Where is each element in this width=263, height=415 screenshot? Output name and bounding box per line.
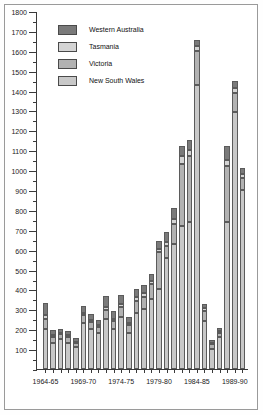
bar-column[interactable] bbox=[126, 317, 132, 369]
x-axis-tick bbox=[182, 369, 183, 373]
y-axis-label: 1600 bbox=[11, 48, 27, 55]
bar-column[interactable] bbox=[96, 320, 102, 369]
y-axis-minor-tick bbox=[33, 82, 37, 83]
bar-segment bbox=[134, 289, 140, 297]
y-axis-minor-tick bbox=[33, 22, 37, 23]
bar-segment bbox=[156, 241, 162, 249]
bar-column[interactable] bbox=[73, 338, 79, 369]
bar-segment bbox=[43, 303, 49, 315]
bar-column[interactable] bbox=[134, 289, 140, 369]
bar-column[interactable] bbox=[194, 40, 200, 369]
x-axis-tick bbox=[121, 369, 122, 373]
bar-segment bbox=[171, 219, 177, 224]
legend-label: Victoria bbox=[89, 60, 112, 67]
y-axis-tick bbox=[29, 111, 37, 112]
bar-column[interactable] bbox=[209, 340, 215, 369]
bar-segment bbox=[149, 299, 155, 369]
bar-segment bbox=[43, 329, 49, 369]
bar-segment bbox=[58, 329, 64, 333]
bar-segment bbox=[209, 340, 215, 342]
bar-segment bbox=[50, 337, 56, 343]
bar-column[interactable] bbox=[202, 304, 208, 369]
bar-segment bbox=[149, 284, 155, 299]
bar-segment bbox=[179, 146, 185, 156]
bar-segment bbox=[43, 315, 49, 319]
bar-column[interactable] bbox=[224, 146, 230, 369]
bar-segment bbox=[103, 319, 109, 369]
bar-segment bbox=[240, 178, 246, 190]
legend-label: Western Australia bbox=[89, 26, 144, 33]
bar-column[interactable] bbox=[43, 303, 49, 369]
bar-segment bbox=[156, 289, 162, 369]
y-axis-label: 100 bbox=[15, 347, 27, 354]
bar-segment bbox=[65, 343, 71, 369]
bar-segment bbox=[202, 308, 208, 311]
bar-segment bbox=[179, 156, 185, 164]
bar-segment bbox=[217, 337, 223, 369]
bar-segment bbox=[126, 325, 132, 333]
bar-column[interactable] bbox=[156, 241, 162, 369]
bar-column[interactable] bbox=[149, 274, 155, 369]
bar-column[interactable] bbox=[118, 295, 124, 369]
y-axis-tick bbox=[29, 131, 37, 132]
bar-segment bbox=[81, 323, 87, 369]
legend-item[interactable]: Western Australia bbox=[58, 22, 178, 37]
x-axis-tick bbox=[159, 369, 160, 373]
bar-segment bbox=[81, 313, 87, 315]
bar-segment bbox=[103, 296, 109, 307]
bar-column[interactable] bbox=[179, 146, 185, 369]
bar-segment bbox=[202, 311, 208, 321]
x-axis-tick bbox=[204, 369, 205, 373]
bar-column[interactable] bbox=[103, 296, 109, 369]
bar-column[interactable] bbox=[141, 285, 147, 369]
bar-segment bbox=[65, 331, 71, 335]
bar-column[interactable] bbox=[111, 311, 117, 369]
bar-column[interactable] bbox=[58, 329, 64, 369]
x-axis-tick bbox=[76, 369, 77, 373]
bar-segment bbox=[96, 327, 102, 333]
x-axis-label: 1989-90 bbox=[222, 378, 248, 385]
bar-segment bbox=[240, 174, 246, 178]
bar-segment bbox=[81, 306, 87, 313]
bar-segment bbox=[50, 335, 56, 337]
bar-segment bbox=[118, 317, 124, 369]
x-axis-tick bbox=[91, 369, 92, 373]
y-axis-tick bbox=[29, 271, 37, 272]
bar-column[interactable] bbox=[217, 328, 223, 369]
bar-column[interactable] bbox=[88, 314, 94, 369]
bar-segment bbox=[209, 349, 215, 369]
bar-segment bbox=[111, 321, 117, 329]
bar-column[interactable] bbox=[240, 168, 246, 369]
y-axis-tick bbox=[29, 251, 37, 252]
bar-column[interactable] bbox=[232, 81, 238, 369]
bar-segment bbox=[217, 333, 223, 337]
bar-segment bbox=[43, 319, 49, 329]
bar-column[interactable] bbox=[65, 331, 71, 369]
legend-item[interactable]: New South Wales bbox=[58, 73, 178, 88]
bar-column[interactable] bbox=[50, 330, 56, 369]
legend-item[interactable]: Victoria bbox=[58, 56, 178, 71]
bar-column[interactable] bbox=[187, 140, 193, 369]
bar-segment bbox=[187, 140, 193, 150]
bar-segment bbox=[58, 339, 64, 369]
bar-segment bbox=[141, 297, 147, 309]
x-axis-tick bbox=[144, 369, 145, 373]
bar-column[interactable] bbox=[81, 306, 87, 369]
bar-segment bbox=[58, 334, 64, 339]
y-axis-minor-tick bbox=[33, 121, 37, 122]
y-axis-minor-tick bbox=[33, 360, 37, 361]
bar-segment bbox=[194, 46, 200, 51]
bar-segment bbox=[111, 319, 117, 321]
bar-segment bbox=[118, 295, 124, 304]
bar-segment bbox=[217, 328, 223, 332]
bar-column[interactable] bbox=[171, 208, 177, 369]
y-axis-minor-tick bbox=[33, 340, 37, 341]
y-axis-tick bbox=[29, 310, 37, 311]
bar-segment bbox=[232, 81, 238, 88]
chart-figure: 1002003004005006007008009001000110012001… bbox=[0, 0, 263, 415]
x-axis-tick bbox=[98, 369, 99, 373]
legend-label: New South Wales bbox=[89, 77, 144, 84]
bar-column[interactable] bbox=[164, 232, 170, 369]
legend-item[interactable]: Tasmania bbox=[58, 39, 178, 54]
x-axis-tick bbox=[220, 369, 221, 373]
